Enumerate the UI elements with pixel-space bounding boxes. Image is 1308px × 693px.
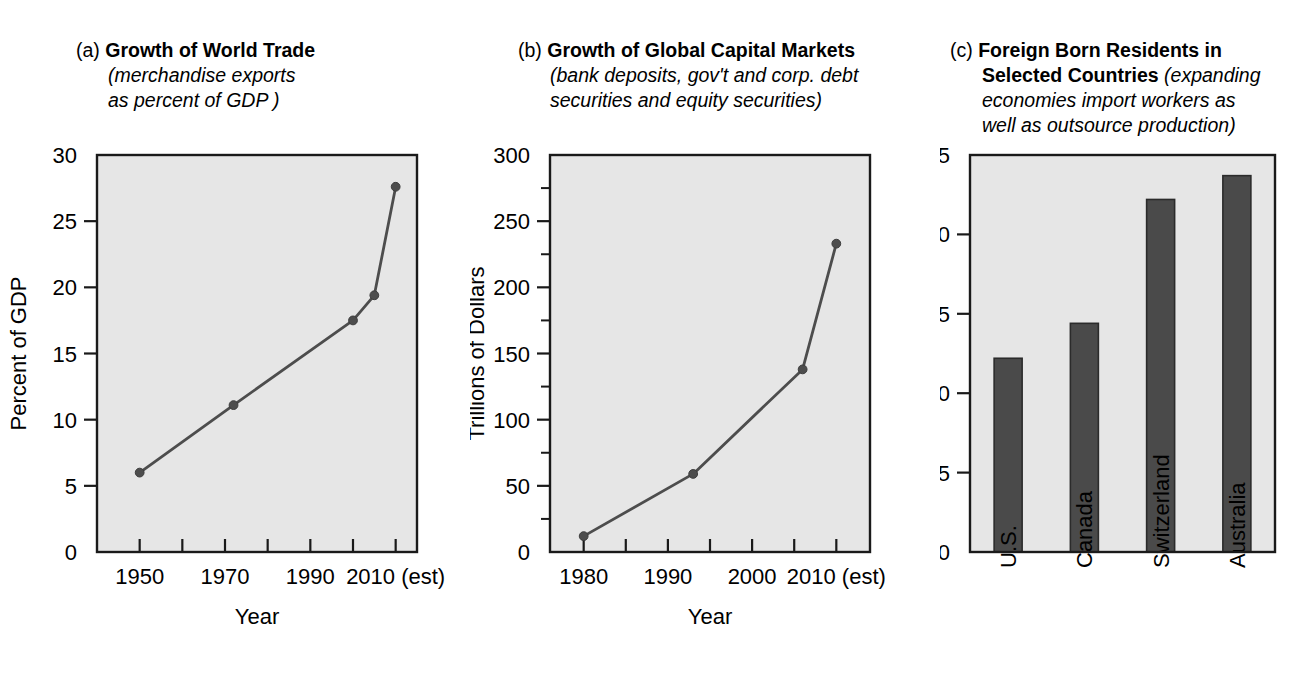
chart-b-line-growth-of-global-capital-markets: 0501001502002503001980199020002010 (est)… — [470, 0, 940, 693]
y-axis-tick-label: 100 — [493, 408, 530, 433]
x-axis-tick-label: 1950 — [115, 564, 164, 589]
data-point-marker — [229, 401, 238, 410]
data-point-marker — [798, 365, 807, 374]
x-axis-tick-label: 2000 — [728, 564, 777, 589]
y-axis-title: Percent of GDP — [6, 276, 31, 430]
bar-category-label: U.S. — [996, 525, 1021, 568]
y-axis-tick-label: 10 — [940, 381, 950, 406]
y-axis-tick-label: 10 — [53, 408, 77, 433]
y-axis-tick-label: 0 — [940, 540, 950, 565]
x-axis-tick-label: 1990 — [643, 564, 692, 589]
y-axis-tick-label: 0 — [518, 540, 530, 565]
y-axis-tick-label: 20 — [940, 222, 950, 247]
x-axis-tick-label: 1970 — [201, 564, 250, 589]
data-point-marker — [689, 470, 698, 479]
y-axis-tick-label: 15 — [940, 302, 950, 327]
x-axis-title: Year — [688, 604, 732, 629]
y-axis-tick-label: 0 — [65, 540, 77, 565]
y-axis-tick-label: 250 — [493, 209, 530, 234]
y-axis-tick-label: 20 — [53, 275, 77, 300]
y-axis-tick-label: 200 — [493, 275, 530, 300]
plot-area-background — [550, 155, 870, 552]
bar-u-s — [994, 358, 1022, 552]
y-axis-tick-label: 300 — [493, 143, 530, 168]
y-axis-tick-label: 25 — [940, 143, 950, 168]
data-point-marker — [370, 291, 379, 300]
chart-a-line-growth-of-world-trade: 0510152025301950197019902010 (est)YearPe… — [0, 0, 470, 693]
y-axis-title: Trillions of Dollars — [470, 266, 489, 440]
chart-c-bar-foreign-born-residents: 0510152025U.S.CanadaSwitzerlandAustralia… — [940, 0, 1308, 693]
panel-b: (b) Growth of Global Capital Markets (ba… — [470, 0, 940, 693]
bar-category-label: Australia — [1225, 482, 1250, 568]
x-axis-tick-label: 2010 (est) — [346, 564, 445, 589]
x-axis-title: Year — [235, 604, 279, 629]
plot-area-background — [97, 155, 417, 552]
y-axis-tick-label: 15 — [53, 342, 77, 367]
data-point-marker — [832, 239, 841, 248]
data-point-marker — [349, 316, 358, 325]
y-axis-tick-label: 5 — [65, 474, 77, 499]
y-axis-tick-label: 25 — [53, 209, 77, 234]
x-axis-tick-label: 1990 — [286, 564, 335, 589]
bar-category-label: Canada — [1072, 490, 1097, 568]
y-axis-tick-label: 30 — [53, 143, 77, 168]
x-axis-tick-label: 1980 — [559, 564, 608, 589]
panel-a: (a) Growth of World Trade (merchandise e… — [0, 0, 470, 693]
y-axis-tick-label: 150 — [493, 342, 530, 367]
data-point-marker — [391, 182, 400, 191]
data-point-marker — [135, 468, 144, 477]
figure-root: (a) Growth of World Trade (merchandise e… — [0, 0, 1308, 693]
data-point-marker — [579, 532, 588, 541]
y-axis-tick-label: 50 — [506, 474, 530, 499]
y-axis-tick-label: 5 — [940, 461, 950, 486]
panel-c: (c) Foreign Born Residents in Selected C… — [940, 0, 1308, 693]
x-axis-tick-label: 2010 (est) — [787, 564, 886, 589]
